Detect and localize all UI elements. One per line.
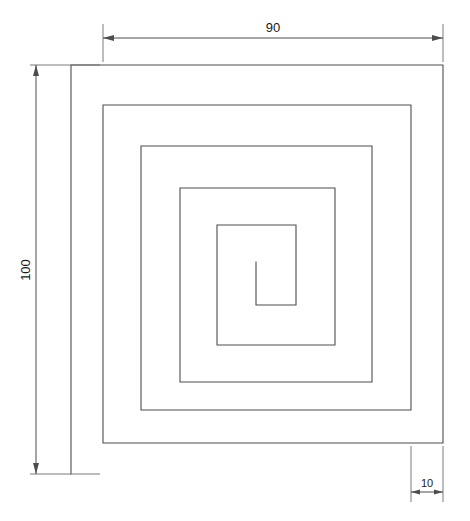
width-arrow-left — [103, 35, 114, 41]
thickness-arrow-right — [434, 490, 443, 495]
part-geometry-group — [71, 65, 443, 474]
spiral-profile-path — [71, 65, 443, 474]
height-dimension-text: 100 — [18, 259, 33, 281]
extension-lines-group — [30, 24, 443, 502]
engineering-drawing-svg: 90 100 10 — [0, 0, 470, 521]
thickness-arrow-left — [411, 490, 420, 495]
thickness-dimension-text: 10 — [421, 477, 433, 489]
width-dimension-group: 90 — [103, 20, 443, 41]
width-arrow-right — [432, 35, 443, 41]
height-arrow-top — [33, 65, 39, 76]
technical-drawing-canvas: 90 100 10 — [0, 0, 470, 521]
width-dimension-text: 90 — [266, 20, 280, 35]
height-arrow-bottom — [33, 463, 39, 474]
thickness-dimension-group: 10 — [411, 477, 443, 495]
height-dimension-group: 100 — [18, 65, 39, 474]
